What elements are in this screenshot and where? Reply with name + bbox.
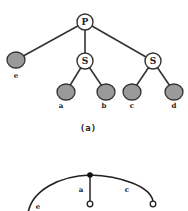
leaf-b: b: [97, 84, 115, 110]
node-s-right: S: [145, 53, 161, 69]
node-s-left-label: S: [82, 56, 89, 66]
edge-label-e: e: [36, 202, 41, 211]
leaf-d: d: [165, 84, 183, 110]
node-s-left: S: [77, 53, 93, 69]
node-p-label: P: [82, 17, 89, 27]
figure-a-tree: P S S e a b c d (a): [7, 14, 183, 133]
top-vertex: [87, 172, 93, 178]
leaf-e: e: [7, 52, 25, 80]
leaf-b-label: b: [102, 101, 107, 110]
leaf-a-label: a: [59, 101, 64, 110]
edge-p-s-right: [85, 22, 153, 61]
leaf-e-label: e: [14, 71, 19, 80]
edge-label-c: c: [125, 185, 129, 194]
node-p: P: [77, 14, 93, 30]
leaf-c-label: c: [130, 101, 134, 110]
edge-p-e: [16, 22, 85, 60]
node-s-right-label: S: [150, 56, 157, 66]
figure-b-arc: a c e: [28, 172, 156, 211]
figure-a-caption: (a): [80, 123, 96, 133]
leaf-d-label: d: [172, 101, 177, 110]
open-vertex-right: [150, 201, 156, 207]
leaf-a: a: [57, 84, 75, 110]
leaf-c: c: [123, 84, 141, 110]
open-vertex-middle: [87, 201, 93, 207]
diagram-canvas: P S S e a b c d (a): [0, 0, 188, 211]
edge-label-a: a: [79, 185, 84, 194]
